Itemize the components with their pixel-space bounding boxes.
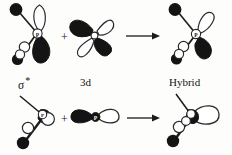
lower-substituent-atom — [17, 137, 29, 149]
plus-operator-bottom: + — [61, 113, 68, 125]
lobe-empty-upper — [34, 5, 46, 31]
hybrid-lower-center-node — [187, 110, 195, 118]
lower-lobe-empty-b — [22, 122, 33, 133]
plus-operator-top: + — [61, 31, 68, 43]
sigma-star-orbital-lower: P — [17, 96, 55, 149]
three-d-orbital — [70, 20, 114, 57]
label-sigma-star-mark: * — [25, 75, 30, 86]
hybrid-lobe-empty-small-b — [174, 49, 183, 58]
d-lobe-upper-right-empty — [97, 20, 114, 35]
arrow-head-top — [152, 32, 160, 39]
p-lobe-filled-left — [71, 110, 92, 123]
hybrid-lobe-empty-upper — [198, 12, 214, 33]
reaction-arrow-bottom — [127, 114, 160, 121]
sigma-star-orbital: P — [10, 3, 50, 65]
lower-center-atom-label: P — [41, 113, 44, 118]
hybrid-orbital-lower — [167, 94, 219, 147]
arrow-head-bottom — [152, 114, 160, 121]
label-three-d: 3d — [80, 77, 91, 88]
d-center-node — [91, 32, 98, 39]
hybrid-lower-substituent-atom — [167, 135, 179, 147]
substituent-atom-upper — [10, 3, 23, 16]
p-lobe-empty-right — [99, 109, 119, 123]
lobe-filled-main — [33, 35, 50, 63]
hybrid-lobe-filled-main — [195, 37, 211, 59]
label-sigma-star: σ* — [18, 76, 30, 91]
p-orbital: P — [71, 109, 119, 123]
label-hybrid: Hybrid — [169, 77, 200, 88]
d-lobe-upper-left-filled-2 — [70, 20, 93, 36]
d-lobe-lower-right-filled-2 — [94, 38, 110, 56]
p-center-atom-label: P — [94, 115, 98, 121]
hybrid-substituent-atom-upper — [169, 3, 182, 16]
d-lobe-lower-left-empty — [77, 38, 94, 57]
label-sigma-glyph: σ — [18, 79, 24, 91]
hybrid-orbital: P — [169, 3, 214, 65]
reaction-arrow-top — [126, 32, 160, 39]
lobe-empty-small-b — [15, 50, 24, 59]
